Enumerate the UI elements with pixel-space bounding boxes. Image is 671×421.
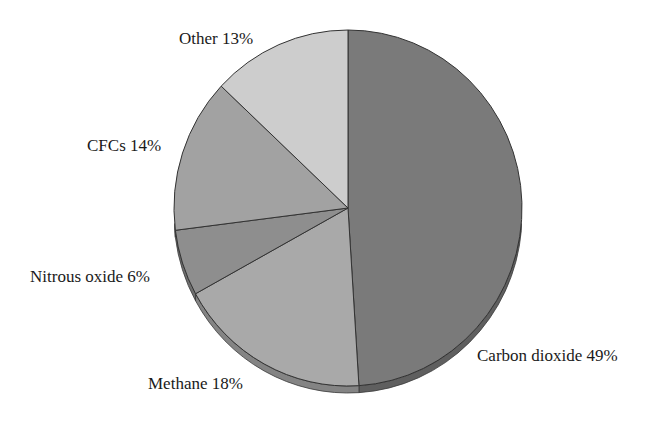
label-other: Other 13% bbox=[179, 29, 253, 48]
label-cfcs: CFCs 14% bbox=[87, 136, 161, 155]
label-methane: Methane 18% bbox=[148, 374, 243, 393]
pie-slices bbox=[174, 30, 522, 386]
label-carbon-dioxide: Carbon dioxide 49% bbox=[477, 346, 618, 365]
slice-carbon-dioxide bbox=[348, 30, 522, 386]
label-nitrous-oxide: Nitrous oxide 6% bbox=[30, 267, 150, 286]
pie-chart: Other 13% CFCs 14% Nitrous oxide 6% Meth… bbox=[0, 0, 671, 421]
